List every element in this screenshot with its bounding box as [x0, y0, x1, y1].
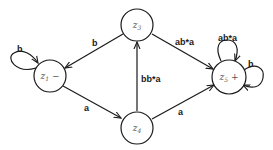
svg-text:z5 +: z5 + — [219, 72, 239, 83]
label-z4-z5: a — [178, 107, 184, 117]
label-z3-z1: b — [92, 38, 98, 48]
node-z3: z3 — [121, 9, 153, 41]
state-diagram: z1 − z3 z4 z5 + b b a bb*a ab*a a ab*a b — [0, 0, 273, 150]
edge-z1-z4 — [63, 86, 121, 118]
edge-z1-z1 — [11, 51, 38, 69]
svg-text:z1 −: z1 − — [40, 71, 60, 82]
node-z1: z1 − — [34, 60, 66, 92]
edge-z5-z5-top — [218, 40, 237, 61]
label-z1-z1: b — [17, 44, 23, 54]
node-z5: z5 + — [212, 60, 246, 94]
label-z4-z3: bb*a — [141, 74, 161, 84]
label-z5-z5-right: b — [248, 59, 254, 69]
label-z3-z5: ab*a — [175, 37, 195, 47]
node-z4: z4 — [121, 112, 153, 144]
label-z1-z4: a — [84, 103, 90, 113]
label-z5-z5-top: ab*a — [218, 33, 238, 43]
